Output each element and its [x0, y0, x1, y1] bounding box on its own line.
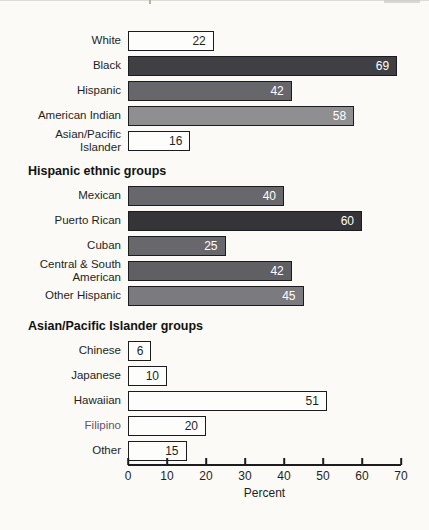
bar-row: Central & South American42	[0, 258, 429, 283]
axis-tick-label: 30	[238, 469, 251, 483]
bar-area: 45	[128, 286, 401, 306]
bar-value: 45	[282, 290, 295, 302]
bar-area: 40	[128, 186, 401, 206]
row-label: Central & South American	[0, 258, 128, 283]
bar-area: 22	[128, 31, 401, 51]
bar-row: Puerto Rican60	[0, 208, 429, 233]
row-label: Black	[0, 59, 128, 72]
chart-sections: White22Black69Hispanic42American Indian5…	[0, 28, 429, 463]
row-label: Hispanic	[0, 84, 128, 97]
bar-chart: White22Black69Hispanic42American Indian5…	[0, 0, 429, 530]
bar: 40	[128, 186, 284, 206]
row-label: Other	[0, 444, 128, 457]
bar-value: 15	[165, 445, 178, 457]
row-label: Asian/Pacific Islander	[0, 128, 128, 153]
row-label: Cuban	[0, 239, 128, 252]
bar-area: 42	[128, 81, 401, 101]
bar-area: 69	[128, 56, 401, 76]
axis-tick	[283, 458, 285, 465]
bar-value: 40	[263, 190, 276, 202]
bar-row: Chinese6	[0, 338, 429, 363]
bar-value: 10	[146, 370, 159, 382]
bar-value: 51	[306, 395, 319, 407]
axis-tick-label: 50	[316, 469, 329, 483]
bar-area: 20	[128, 416, 401, 436]
row-label: Hawaiian	[0, 394, 128, 407]
bar-row: Cuban25	[0, 233, 429, 258]
bar: 60	[128, 211, 362, 231]
bar-row: American Indian58	[0, 103, 429, 128]
bar-value: 22	[192, 35, 205, 47]
bar-area: 10	[128, 366, 401, 386]
axis-tick	[166, 458, 168, 465]
bar-value: 6	[137, 345, 144, 357]
row-label: American Indian	[0, 109, 128, 122]
axis-tick-label: 0	[125, 469, 132, 483]
bar-value: 69	[376, 60, 389, 72]
bar-row: Hawaiian51	[0, 388, 429, 413]
bar-row: Mexican40	[0, 183, 429, 208]
bar-row: Japanese10	[0, 363, 429, 388]
bar: 58	[128, 106, 354, 126]
bar: 10	[128, 366, 167, 386]
bar-value: 42	[270, 265, 283, 277]
page-crop-artifact	[384, 0, 420, 3]
bar: 25	[128, 236, 226, 256]
x-axis: 010203040506070 Percent	[128, 458, 401, 504]
bar-area: 16	[128, 131, 401, 151]
bar-row: Asian/Pacific Islander16	[0, 128, 429, 153]
bar: 16	[128, 131, 190, 151]
axis-tick-label: 10	[160, 469, 173, 483]
axis-tick	[244, 458, 246, 465]
axis-tick-label: 40	[277, 469, 290, 483]
axis-tick	[361, 458, 363, 465]
page-crop-artifact	[0, 0, 429, 1]
axis-tick-label: 20	[199, 469, 212, 483]
axis-tick	[400, 458, 402, 465]
axis-tick	[205, 458, 207, 465]
bar: 42	[128, 261, 292, 281]
section-title: Asian/Pacific Islander groups	[28, 319, 429, 333]
row-label: Puerto Rican	[0, 214, 128, 227]
bar-area: 6	[128, 341, 401, 361]
row-label: White	[0, 34, 128, 47]
bar-row: Filipino20	[0, 413, 429, 438]
axis-tick	[322, 458, 324, 465]
chart-section: Asian/Pacific Islander groupsChinese6Jap…	[0, 319, 429, 463]
bar: 69	[128, 56, 397, 76]
bar-value: 42	[270, 85, 283, 97]
axis-line	[128, 464, 401, 466]
row-label: Mexican	[0, 189, 128, 202]
bar-row: White22	[0, 28, 429, 53]
chart-section: Hispanic ethnic groupsMexican40Puerto Ri…	[0, 164, 429, 308]
bar: 20	[128, 416, 206, 436]
row-label: Chinese	[0, 344, 128, 357]
axis-title: Percent	[128, 486, 401, 500]
bar: 42	[128, 81, 292, 101]
row-label: Japanese	[0, 369, 128, 382]
bar: 45	[128, 286, 304, 306]
bar-row: Hispanic42	[0, 78, 429, 103]
axis-tick-label: 60	[355, 469, 368, 483]
axis-tick-label: 70	[394, 469, 407, 483]
page-crop-artifact	[149, 0, 151, 4]
bar-area: 51	[128, 391, 401, 411]
bar: 51	[128, 391, 327, 411]
bar-area: 25	[128, 236, 401, 256]
bar-area: 42	[128, 261, 401, 281]
bar-row: Other Hispanic45	[0, 283, 429, 308]
bar-value: 60	[341, 215, 354, 227]
bar: 6	[128, 341, 151, 361]
bar-value: 25	[204, 240, 217, 252]
bar-area: 58	[128, 106, 401, 126]
row-label: Other Hispanic	[0, 289, 128, 302]
bar: 22	[128, 31, 214, 51]
bar-value: 58	[333, 110, 346, 122]
bar-area: 60	[128, 211, 401, 231]
axis-tick	[127, 458, 129, 465]
bar-value: 16	[169, 135, 182, 147]
bar-row: Black69	[0, 53, 429, 78]
section-title: Hispanic ethnic groups	[28, 164, 429, 178]
bar-value: 20	[185, 420, 198, 432]
chart-section: White22Black69Hispanic42American Indian5…	[0, 28, 429, 153]
